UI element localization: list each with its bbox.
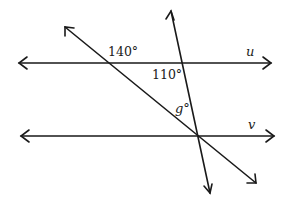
- angle-label-g: g°: [175, 101, 190, 116]
- transversal-1: [65, 27, 256, 183]
- arrowhead-top-icon: [166, 11, 174, 20]
- line-label-v: v: [248, 117, 256, 132]
- angle-label-140: 140°: [108, 44, 138, 59]
- line-u: [19, 57, 271, 69]
- line-label-u: u: [246, 44, 254, 59]
- geometry-diagram: 140° 110° g° u v: [0, 0, 287, 204]
- angle-label-110: 110°: [152, 67, 182, 82]
- line-v: [21, 130, 274, 142]
